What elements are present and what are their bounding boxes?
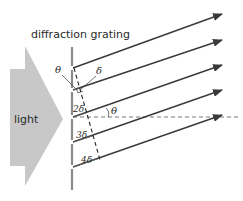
path-label-2delta: 2δ	[72, 104, 84, 114]
light-label: light	[14, 113, 39, 126]
path-label-4delta: 4δ	[80, 155, 92, 165]
theta-label-mid: θ	[111, 105, 117, 116]
path-label-3delta: 3δ	[76, 130, 87, 140]
ray-4	[73, 90, 222, 142]
theta-arc	[106, 108, 109, 117]
ray-1	[73, 14, 222, 68]
grating-label: diffraction grating	[31, 28, 130, 41]
delta-label: δ	[96, 65, 102, 76]
diffraction-diagram: light diffraction grating θ δ θ 2δ 3δ 4	[0, 0, 243, 201]
theta-label-top: θ	[55, 64, 61, 75]
